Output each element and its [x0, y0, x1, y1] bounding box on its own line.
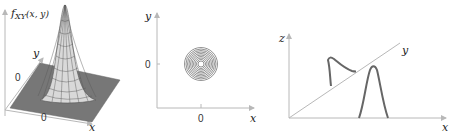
marginals-panel: z y x: [278, 32, 449, 134]
contour-lines: [185, 48, 218, 81]
y-axis: [289, 43, 400, 118]
x-origin-label: 0: [41, 112, 47, 123]
z-axis-label: fXY(x, y): [10, 7, 49, 21]
xz-curve: [359, 66, 388, 118]
x-axis-label: x: [442, 121, 449, 134]
y-axis-label: y: [144, 10, 152, 23]
x-axis-label: x: [250, 112, 257, 125]
figure: fXY(x, y) y 0 0 x y 0 0 x: [0, 0, 449, 134]
x-tick-label: 0: [198, 113, 204, 124]
x-axis-label: x: [89, 121, 96, 134]
y-axis-label: y: [32, 47, 40, 60]
y-tick-label: 0: [145, 59, 151, 70]
y-axis-label: y: [401, 44, 409, 57]
z-axis-label: z: [278, 32, 285, 45]
contour-panel: y 0 0 x: [144, 10, 257, 125]
surface-panel: fXY(x, y) y 0 0 x: [5, 5, 120, 134]
y-origin-label: 0: [15, 72, 21, 83]
